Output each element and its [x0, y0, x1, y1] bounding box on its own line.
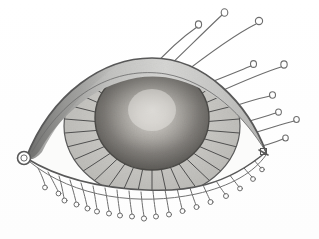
- eye-illustration: [0, 0, 319, 239]
- caruncle-circle: [18, 152, 31, 165]
- iris-highlight: [128, 89, 176, 131]
- eye-drawing-canvas: [0, 0, 319, 239]
